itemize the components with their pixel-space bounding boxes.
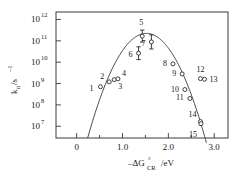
data-point-label-7: 7 xyxy=(141,39,145,48)
data-point-label-15: 15 xyxy=(189,130,197,139)
x-axis-label-main: –ΔG xyxy=(127,158,145,168)
y-tick-label-3: 10 xyxy=(31,57,41,67)
data-point-5 xyxy=(140,34,144,38)
data-point-2 xyxy=(107,80,111,84)
data-point-8 xyxy=(171,62,175,66)
data-point-15 xyxy=(199,122,203,126)
data-point-12 xyxy=(198,77,202,81)
y-tick-label-5: 10 xyxy=(31,14,41,24)
data-point-label-5: 5 xyxy=(139,18,143,27)
x-axis-label-subscript: CR xyxy=(147,164,156,171)
data-point-13 xyxy=(203,77,207,81)
data-point-label-10: 10 xyxy=(171,85,179,94)
x-axis-label-degree: ° xyxy=(148,156,151,163)
data-point-label-1: 1 xyxy=(89,84,93,93)
x-tick-label-2: 2.0 xyxy=(163,142,175,152)
y-tick-label-0: 10 xyxy=(31,121,41,131)
y-axis-label-unit: /s xyxy=(9,78,19,85)
y-tick-exponent-2: 9 xyxy=(41,76,44,83)
data-point-label-6: 6 xyxy=(129,50,133,59)
data-point-6 xyxy=(137,51,141,55)
y-tick-label-2: 10 xyxy=(31,79,41,89)
data-point-10 xyxy=(183,88,187,92)
y-tick-label-1: 10 xyxy=(31,100,41,110)
data-point-4 xyxy=(116,77,120,81)
data-point-7 xyxy=(149,40,153,44)
data-point-label-9: 9 xyxy=(172,69,176,78)
data-point-1 xyxy=(98,85,102,89)
y-tick-label-4: 10 xyxy=(31,36,41,46)
x-axis-label-unit: /eV xyxy=(161,158,174,168)
y-tick-exponent-4: 11 xyxy=(41,33,47,40)
chart-canvas: 01.02.03.0 107108109101010111012 1234567… xyxy=(0,0,239,176)
data-point-11 xyxy=(188,96,192,100)
y-axis-label-exponent: –1 xyxy=(6,66,13,74)
marcus-plot-figure: 01.02.03.0 107108109101010111012 1234567… xyxy=(0,0,239,176)
data-point-label-3: 3 xyxy=(118,82,122,91)
data-point-label-4: 4 xyxy=(122,69,126,78)
data-point-label-12: 12 xyxy=(196,65,204,74)
y-tick-exponent-3: 10 xyxy=(41,54,48,61)
y-tick-exponent-1: 8 xyxy=(41,97,44,104)
data-point-label-14: 14 xyxy=(188,110,196,119)
data-point-label-13: 13 xyxy=(210,75,218,84)
x-tick-label-1: 1.0 xyxy=(117,142,129,152)
data-point-label-8: 8 xyxy=(163,59,167,68)
data-point-label-11: 11 xyxy=(176,93,184,102)
x-tick-label-0: 0 xyxy=(74,142,79,152)
y-tick-exponent-5: 12 xyxy=(41,11,48,18)
x-tick-label-3: 3.0 xyxy=(209,142,221,152)
data-point-label-2: 2 xyxy=(100,72,104,81)
data-point-9 xyxy=(180,72,184,76)
